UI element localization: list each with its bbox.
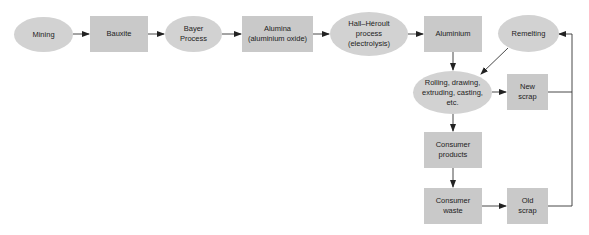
- node-rolling: Rolling, drawing, extruding, casting, et…: [413, 71, 492, 114]
- node-bauxite: Bauxite: [90, 16, 148, 52]
- node-remelting: Remelting: [498, 15, 559, 52]
- node-alumina: Alumina (aluminium oxide): [242, 16, 313, 52]
- node-new-scrap: New scrap: [507, 74, 548, 110]
- node-consumer-waste: Consumer waste: [424, 188, 482, 224]
- node-mining: Mining: [14, 17, 73, 52]
- arrow-remelting-rolling: [481, 48, 508, 74]
- node-hall-heroult: Hall–Héroult process (electrolysis): [330, 12, 408, 56]
- node-old-scrap: Old scrap: [507, 188, 548, 224]
- line-oldscrap-return: [548, 34, 572, 206]
- node-aluminium: Aluminium: [424, 16, 482, 52]
- node-consumer-products: Consumer products: [424, 132, 482, 168]
- node-bayer-process: Bayer Process: [165, 16, 222, 52]
